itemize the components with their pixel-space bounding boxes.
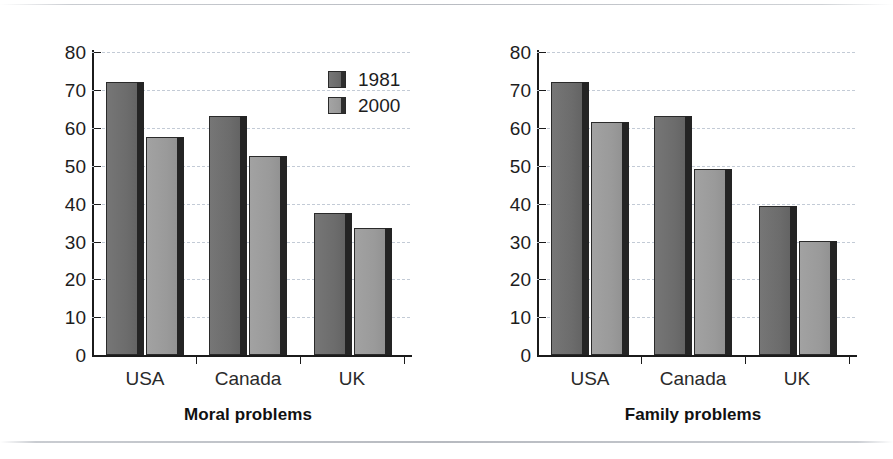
x-axis-label-uk: UK	[784, 368, 810, 390]
y-tick-mark	[539, 52, 546, 53]
y-tick-label: 40	[497, 195, 531, 214]
y-tick-mark	[94, 242, 101, 243]
y-tick-mark	[94, 90, 101, 91]
y-axis-tick-labels: 80 70 60 50 40 30 20 10 0	[491, 0, 531, 360]
y-tick-mark	[539, 128, 546, 129]
x-axis-line	[537, 355, 857, 357]
y-tick-mark	[539, 166, 546, 167]
x-tick-mark	[849, 355, 850, 364]
y-tick-mark	[94, 166, 101, 167]
bottom-divider	[0, 441, 893, 443]
bar-side-shade	[345, 213, 352, 355]
y-tick-label: 80	[52, 43, 86, 62]
bar-side-shade	[790, 206, 797, 355]
chart-panel-moral-problems: 80 70 60 50 40 30 20 10 0 USA Canada UK …	[0, 0, 450, 440]
y-tick-mark	[94, 317, 101, 318]
y-axis-tick-marks	[539, 0, 547, 360]
y-tick-mark	[539, 242, 546, 243]
y-tick-label: 20	[52, 270, 86, 289]
bar-side-shade	[280, 156, 287, 355]
legend-moral-problems: 1981 2000	[328, 66, 400, 118]
bar-side-shade	[582, 82, 589, 355]
x-axis-label-usa: USA	[570, 368, 609, 390]
y-tick-label: 30	[497, 233, 531, 252]
x-tick-mark	[300, 355, 301, 364]
chart-title-moral-problems: Moral problems	[184, 405, 312, 425]
bar-family-usa-2000	[591, 122, 629, 355]
y-tick-mark	[539, 279, 546, 280]
y-tick-label: 50	[52, 157, 86, 176]
bar-side-shade	[385, 228, 392, 355]
bar-moral-canada-1981	[209, 116, 247, 355]
bar-moral-canada-2000	[249, 156, 287, 355]
x-axis-label-canada: Canada	[215, 368, 282, 390]
legend-item-2000: 2000	[328, 92, 400, 118]
bar-side-shade	[240, 116, 247, 355]
bar-side-shade	[137, 82, 144, 355]
legend-item-1981: 1981	[328, 66, 400, 92]
bar-family-canada-2000	[694, 169, 732, 355]
bar-moral-usa-2000	[146, 137, 184, 355]
y-tick-label: 0	[52, 346, 86, 365]
x-tick-mark	[404, 355, 405, 364]
y-tick-mark	[94, 52, 101, 53]
legend-label-1981: 1981	[358, 70, 400, 89]
chart-panel-family-problems: 80 70 60 50 40 30 20 10 0 USA Canada UK …	[443, 0, 893, 440]
y-tick-mark	[94, 204, 101, 205]
bar-moral-usa-1981	[106, 82, 144, 355]
y-tick-label: 0	[497, 346, 531, 365]
y-tick-label: 50	[497, 157, 531, 176]
y-tick-label: 10	[52, 308, 86, 327]
bar-moral-uk-1981	[314, 213, 352, 355]
x-tick-mark	[745, 355, 746, 364]
y-tick-mark	[94, 128, 101, 129]
gridline-80	[92, 52, 410, 53]
y-axis-tick-labels: 80 70 60 50 40 30 20 10 0	[46, 0, 86, 360]
y-tick-label: 40	[52, 195, 86, 214]
bar-family-usa-1981	[551, 82, 589, 355]
y-tick-label: 70	[52, 81, 86, 100]
y-tick-mark	[539, 355, 546, 356]
x-axis-label-uk: UK	[339, 368, 365, 390]
bar-side-shade	[685, 116, 692, 355]
chart-title-family-problems: Family problems	[625, 405, 762, 425]
x-axis-label-canada: Canada	[660, 368, 727, 390]
y-tick-mark	[539, 90, 546, 91]
legend-label-2000: 2000	[358, 96, 400, 115]
gridline-80	[537, 52, 855, 53]
y-tick-mark	[94, 355, 101, 356]
x-tick-mark	[196, 355, 197, 364]
y-tick-label: 60	[497, 119, 531, 138]
y-tick-mark	[539, 204, 546, 205]
bar-family-uk-2000	[799, 241, 837, 355]
y-tick-label: 80	[497, 43, 531, 62]
x-tick-mark	[641, 355, 642, 364]
bar-side-shade	[622, 122, 629, 355]
bar-side-shade	[177, 137, 184, 355]
x-axis-line	[92, 355, 412, 357]
bar-side-shade	[830, 241, 837, 355]
dark-gray-swatch-icon	[328, 71, 346, 88]
bar-side-shade	[725, 169, 732, 355]
light-gray-swatch-icon	[328, 97, 346, 114]
y-tick-mark	[94, 279, 101, 280]
y-tick-label: 70	[497, 81, 531, 100]
x-axis-label-usa: USA	[125, 368, 164, 390]
bar-family-uk-1981	[759, 206, 797, 355]
y-axis-tick-marks	[94, 0, 102, 360]
y-tick-label: 30	[52, 233, 86, 252]
y-tick-mark	[539, 317, 546, 318]
plot-area-family-problems	[537, 52, 855, 355]
y-tick-label: 10	[497, 308, 531, 327]
bar-moral-uk-2000	[354, 228, 392, 355]
y-tick-label: 20	[497, 270, 531, 289]
y-tick-label: 60	[52, 119, 86, 138]
bar-family-canada-1981	[654, 116, 692, 355]
